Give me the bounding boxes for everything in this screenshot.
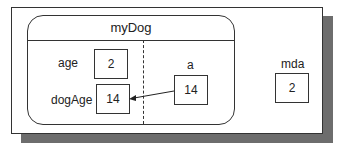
reference-arrow-icon xyxy=(0,0,341,149)
